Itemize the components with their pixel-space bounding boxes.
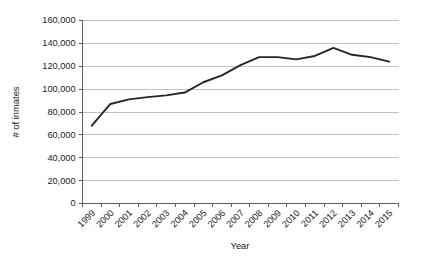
y-axis-tick-label: 160,000 <box>42 15 75 25</box>
y-axis-tick-label: 140,000 <box>42 38 75 48</box>
y-axis-tick-label: 100,000 <box>42 84 75 94</box>
y-axis-tick-label: 80,000 <box>47 107 75 117</box>
chart-canvas: 020,00040,00060,00080,000100,000120,0001… <box>0 0 423 263</box>
y-axis-tick-label: 40,000 <box>47 153 75 163</box>
y-axis-tick-label: 120,000 <box>42 61 75 71</box>
x-axis-title: Year <box>231 240 250 251</box>
y-axis-tick-labels: 020,00040,00060,00080,000100,000120,0001… <box>42 15 75 208</box>
y-axis-title: # of inmates <box>10 86 21 137</box>
line-chart: 020,00040,00060,00080,000100,000120,0001… <box>0 0 423 263</box>
y-axis-tick-label: 0 <box>70 198 75 208</box>
y-axis-tick-label: 60,000 <box>47 130 75 140</box>
y-axis-tick-label: 20,000 <box>47 176 75 186</box>
